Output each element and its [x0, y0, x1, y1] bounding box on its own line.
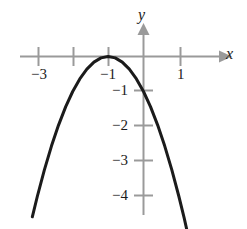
x-tick-label-pos1: 1 [177, 67, 185, 82]
x-tick-label-neg3: −3 [31, 67, 47, 82]
graph-figure: −3 −1 1 −1 −2 −3 −4 x y [0, 0, 247, 229]
y-axis-arrowhead [138, 23, 150, 35]
y-tick-label-neg2: −2 [112, 118, 128, 133]
y-tick-label-neg4: −4 [112, 188, 128, 203]
x-axis-label: x [226, 46, 233, 62]
y-tick-label-neg3: −3 [112, 153, 128, 168]
y-tick-label-neg1: −1 [112, 83, 128, 98]
y-axis-label: y [138, 7, 145, 23]
x-tick-label-neg1: −1 [100, 67, 116, 82]
